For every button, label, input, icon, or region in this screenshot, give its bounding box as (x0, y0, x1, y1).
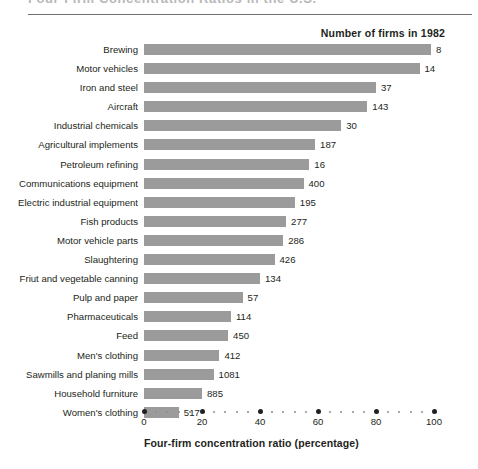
bar-value-label: 195 (300, 197, 316, 208)
axis-major-tick (316, 409, 321, 414)
bar-category-label: Iron and steel (0, 82, 138, 94)
bar (144, 197, 295, 208)
axis-major-tick (142, 409, 147, 414)
bar-value-label: 16 (314, 159, 325, 170)
bar (144, 159, 309, 170)
bar-category-label: Feed (0, 330, 138, 342)
bar-value-label: 30 (346, 120, 357, 131)
bar-category-label: Industrial chemicals (0, 120, 138, 132)
bar-row: Friut and vegetable canning134 (0, 273, 478, 292)
bar-category-label: Electric industrial equipment (0, 197, 138, 209)
axis-tick-label: 100 (419, 416, 449, 427)
bar-value-label: 286 (288, 235, 304, 246)
bar (144, 369, 214, 380)
bar-row: Motor vehicle parts286 (0, 235, 478, 254)
bar-value-label: 134 (265, 273, 281, 284)
bar-category-label: Aircraft (0, 101, 138, 113)
bar-row: Agricultural implements187 (0, 139, 478, 158)
bar-category-label: Pulp and paper (0, 292, 138, 304)
bar-value-label: 57 (248, 292, 259, 303)
axis-minor-tick (398, 411, 400, 413)
axis-minor-tick (282, 411, 284, 413)
bar-value-label: 1081 (219, 369, 240, 380)
axis-minor-tick (340, 411, 342, 413)
axis-major-tick (432, 409, 437, 414)
axis-minor-tick (410, 411, 412, 413)
bar (144, 216, 286, 227)
axis-minor-tick (363, 411, 365, 413)
bar-row: Petroleum refining16 (0, 159, 478, 178)
bar (144, 120, 341, 131)
bar-category-label: Motor vehicle parts (0, 235, 138, 247)
bar (144, 178, 304, 189)
axis-minor-tick (155, 411, 157, 413)
bar-category-label: Household furniture (0, 388, 138, 400)
bar-chart: Number of firms in 1982 Brewing8Motor ve… (0, 0, 478, 469)
bar-row: Household furniture885 (0, 388, 478, 407)
bar-row: Pharmaceuticals114 (0, 311, 478, 330)
bar-value-label: 143 (372, 101, 388, 112)
bar-category-label: Men's clothing (0, 350, 138, 362)
bar-category-label: Brewing (0, 44, 138, 56)
axis-minor-tick (178, 411, 180, 413)
axis-minor-tick (329, 411, 331, 413)
bar-category-label: Petroleum refining (0, 159, 138, 171)
axis-minor-tick (166, 411, 168, 413)
axis-minor-tick (421, 411, 423, 413)
axis-minor-tick (352, 411, 354, 413)
axis-tick-label: 60 (303, 416, 333, 427)
bar-value-label: 187 (320, 139, 336, 150)
bar-category-label: Agricultural implements (0, 139, 138, 151)
bar-value-label: 450 (233, 330, 249, 341)
bar-value-label: 8 (436, 44, 441, 55)
bar-category-label: Friut and vegetable canning (0, 273, 138, 285)
bar-row: Brewing8 (0, 44, 478, 63)
bar (144, 254, 275, 265)
plot-area: Brewing8Motor vehicles14Iron and steel37… (0, 44, 478, 426)
series-header-label: Number of firms in 1982 (200, 27, 445, 39)
bar-value-label: 412 (224, 350, 240, 361)
bar-row: Iron and steel37 (0, 82, 478, 101)
bar-value-label: 114 (236, 311, 251, 322)
bar (144, 63, 420, 74)
bar-value-label: 885 (207, 388, 223, 399)
bar (144, 311, 231, 322)
bar-row: Industrial chemicals30 (0, 120, 478, 139)
bar (144, 82, 376, 93)
axis-minor-tick (271, 411, 273, 413)
bar-row: Communications equipment400 (0, 178, 478, 197)
bar-value-label: 14 (425, 63, 436, 74)
axis-minor-tick (213, 411, 215, 413)
axis-tick-label: 0 (129, 416, 159, 427)
x-axis-title: Four-firm concentration ratio (percentag… (144, 437, 359, 449)
bar-row: Fish products277 (0, 216, 478, 235)
axis-tick-label: 80 (361, 416, 391, 427)
axis-tick-label: 40 (245, 416, 275, 427)
axis-minor-tick (189, 411, 191, 413)
bar-row: Sawmills and planing mills1081 (0, 369, 478, 388)
bar (144, 139, 315, 150)
axis-tick-label: 20 (187, 416, 217, 427)
bar-value-label: 426 (280, 254, 296, 265)
bar (144, 44, 431, 55)
axis-major-tick (374, 409, 379, 414)
axis-minor-tick (305, 411, 307, 413)
bar (144, 330, 228, 341)
bar-row: Aircraft143 (0, 101, 478, 120)
axis-minor-tick (294, 411, 296, 413)
bar-row: Feed450 (0, 330, 478, 349)
bar-category-label: Sawmills and planing mills (0, 369, 138, 381)
bar (144, 273, 260, 284)
bar-row: Slaughtering426 (0, 254, 478, 273)
bar-category-label: Fish products (0, 216, 138, 228)
axis-minor-tick (387, 411, 389, 413)
bar-row: Men's clothing412 (0, 350, 478, 369)
bar-value-label: 37 (381, 82, 392, 93)
bar (144, 235, 283, 246)
bar (144, 292, 243, 303)
bar-value-label: 277 (291, 216, 307, 227)
bar-category-label: Slaughtering (0, 254, 138, 266)
axis-minor-tick (236, 411, 238, 413)
axis-major-tick (200, 409, 205, 414)
bar-row: Electric industrial equipment195 (0, 197, 478, 216)
